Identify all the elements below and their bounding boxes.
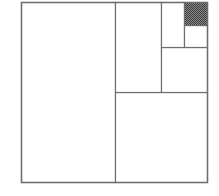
region-quarter: [116, 93, 208, 183]
square-subdivision-diagram: [0, 0, 219, 196]
region-sixteenth: [162, 48, 208, 93]
region-thirty-second: [162, 3, 185, 48]
region-remainder: [185, 3, 208, 26]
region-sixty-fourth: [185, 26, 208, 48]
region-half: [22, 3, 116, 183]
region-eighth: [116, 3, 162, 93]
